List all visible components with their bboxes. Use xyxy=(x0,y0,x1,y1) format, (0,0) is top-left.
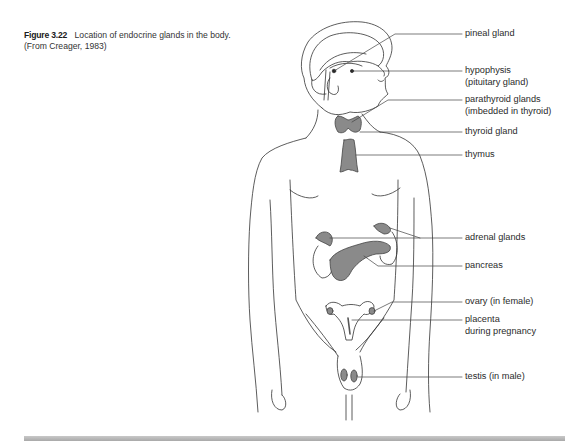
label-line: thymus xyxy=(465,149,495,161)
torso-left-outline xyxy=(249,138,307,412)
label-line: pineal gland xyxy=(465,28,515,40)
label-ovary: ovary (in female) xyxy=(465,296,533,308)
label-line: placenta xyxy=(465,314,536,326)
label-line: (imbedded in thyroid) xyxy=(465,106,551,118)
torso-right-outline xyxy=(380,132,433,412)
leader-parathyroid xyxy=(352,100,462,122)
adrenal-right xyxy=(374,223,391,234)
leader-lines xyxy=(330,34,462,377)
page-bottom-rule xyxy=(24,436,565,441)
label-line: adrenal glands xyxy=(465,232,525,244)
label-line: ovary (in female) xyxy=(465,296,533,308)
label-testis: testis (in male) xyxy=(465,371,525,383)
label-thymus: thymus xyxy=(465,149,495,161)
adrenal-left xyxy=(316,232,332,246)
label-line: (pituitary gland) xyxy=(465,77,528,89)
label-line: thyroid gland xyxy=(465,126,518,138)
thymus-gland xyxy=(340,139,358,172)
label-line: hypophysis xyxy=(465,65,528,77)
label-parathyroid-glands: parathyroid glands (imbedded in thyroid) xyxy=(465,94,551,117)
testis-right xyxy=(351,370,357,382)
label-adrenal-glands: adrenal glands xyxy=(465,232,525,244)
label-line: pancreas xyxy=(465,260,503,272)
ovary-left xyxy=(327,308,333,315)
leader-ovary xyxy=(374,302,462,311)
label-line: parathyroid glands xyxy=(465,94,551,106)
testis-left xyxy=(341,369,347,381)
label-hypophysis: hypophysis (pituitary gland) xyxy=(465,65,528,88)
brain-outline xyxy=(310,33,384,81)
label-thyroid-gland: thyroid gland xyxy=(465,126,518,138)
kidney-left xyxy=(313,246,332,278)
label-pancreas: pancreas xyxy=(465,260,503,272)
label-line: during pregnancy xyxy=(465,326,536,338)
label-line: testis (in male) xyxy=(465,371,525,383)
head-outline xyxy=(301,22,392,115)
label-pineal-gland: pineal gland xyxy=(465,28,515,40)
label-placenta: placenta during pregnancy xyxy=(465,314,536,337)
